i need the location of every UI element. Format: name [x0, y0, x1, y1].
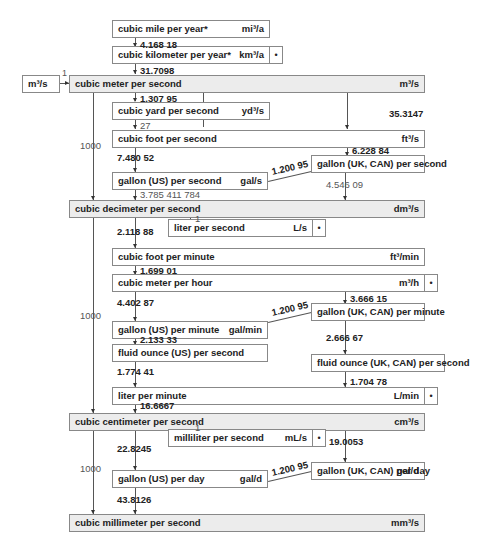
- unit-label: fluid ounce (UK, CAN) per second: [317, 355, 470, 371]
- unit-symbol: mi³/a: [242, 21, 264, 37]
- factor-label: 3.666 15: [350, 293, 387, 304]
- unit-box-dm3s[interactable]: cubic decimeter per seconddm³/s: [69, 200, 425, 218]
- factor-label: 4.546 09: [326, 179, 363, 190]
- unit-box-yd3s[interactable]: cubic yard per secondyd³/s: [112, 102, 270, 120]
- factor-label: 2.666 67: [326, 332, 363, 343]
- unit-symbol: L/s: [293, 220, 307, 236]
- unit-symbol: km³/a: [239, 47, 264, 63]
- unit-box-mm3s[interactable]: cubic millimeter per secondmm³/s: [69, 514, 425, 532]
- unit-symbol: cm³/s: [394, 414, 419, 430]
- unit-symbol: L/min: [394, 388, 419, 404]
- unit-box-ft3min[interactable]: cubic foot per minuteft³/min: [112, 248, 425, 266]
- factor-label: 2.133 33: [140, 334, 177, 345]
- factor-label: 43.8126: [117, 494, 151, 505]
- factor-label: 1.704 78: [350, 376, 387, 387]
- unit-box-km3a[interactable]: cubic kilometer per year*km³/a: [112, 46, 270, 64]
- unit-box-galus-d[interactable]: gallon (US) per daygal/d: [112, 470, 268, 488]
- factor-label: 1: [195, 213, 200, 224]
- unit-symbol: mm³/s: [391, 515, 419, 531]
- unit-label: fluid ounce (US) per second: [118, 345, 244, 361]
- factor-label: 6.228 84: [352, 145, 389, 156]
- unit-label: cubic yard per second: [118, 103, 219, 119]
- unit-box-galuk-s[interactable]: gallon (UK, CAN) per second: [311, 155, 425, 173]
- factor-label: 1.774 41: [117, 366, 154, 377]
- unit-symbol: dm³/s: [394, 201, 419, 217]
- factor-label: 1.200 95: [271, 158, 310, 177]
- si-dot-icon: •: [424, 387, 438, 405]
- factor-label: 3.785 411 784: [140, 189, 200, 200]
- unit-box-ls[interactable]: liter per secondL/s: [168, 219, 313, 237]
- factor-label: 22.8245: [117, 443, 151, 454]
- unit-box-m3h[interactable]: cubic meter per hourm³/h: [112, 274, 425, 292]
- factor-label: 35.3147: [389, 108, 423, 119]
- unit-box-flozus-s[interactable]: fluid ounce (US) per second: [112, 344, 268, 362]
- flow-rate-conversion-diagram: m³/s 1 cubic mile per year*mi³/a cubic k…: [0, 0, 496, 553]
- si-dot-icon: •: [269, 46, 283, 64]
- factor-label: 4.402 87: [117, 297, 154, 308]
- factor-label: 2.118 88: [117, 226, 153, 237]
- unit-box-galus-s[interactable]: gallon (US) per secondgal/s: [112, 172, 268, 190]
- factor-label: 19.0053: [329, 436, 363, 447]
- unit-box-galus-min[interactable]: gallon (US) per minutegal/min: [112, 321, 268, 339]
- factor-label: 16.6667: [140, 400, 174, 411]
- unit-symbol: gal/d: [240, 471, 262, 487]
- factor-label: 1000: [80, 140, 101, 151]
- unit-label: cubic decimeter per second: [75, 201, 201, 217]
- factor-label: 1000: [80, 463, 101, 474]
- unit-label: gallon (US) per day: [118, 471, 205, 487]
- unit-label: cubic foot per minute: [118, 249, 215, 265]
- factor-label: 27: [140, 120, 151, 131]
- unit-symbol: m³/h: [399, 275, 419, 291]
- unit-box-galuk-min[interactable]: gallon (UK, CAN) per minute: [311, 303, 425, 321]
- unit-symbol: ft³/min: [390, 249, 419, 265]
- unit-box-flozuk-s[interactable]: fluid ounce (UK, CAN) per second: [311, 354, 445, 372]
- unit-label: cubic meter per hour: [118, 275, 213, 291]
- unit-symbol: ft³/s: [402, 131, 419, 147]
- unit-box-galuk-d[interactable]: gallon (UK, CAN) per daygal/d: [311, 462, 425, 480]
- factor-label: 1.699 01: [140, 265, 177, 276]
- unit-label: gallon (UK, CAN) per minute: [317, 304, 445, 320]
- unit-symbol: m³/s: [399, 76, 419, 92]
- unit-label: liter per second: [174, 220, 245, 236]
- si-dot-icon: •: [312, 429, 326, 447]
- input-factor: 1: [62, 68, 67, 78]
- unit-label: cubic meter per second: [75, 76, 182, 92]
- unit-symbol: mL/s: [285, 430, 307, 446]
- si-dot-icon: •: [424, 274, 438, 292]
- unit-label: cubic foot per second: [118, 131, 217, 147]
- si-dot-icon: •: [312, 219, 326, 237]
- unit-label: cubic centimeter per second: [75, 414, 204, 430]
- unit-symbol: yd³/s: [242, 103, 264, 119]
- factor-label: 7.480 52: [117, 152, 154, 163]
- unit-symbol: gal/d: [397, 463, 419, 479]
- unit-box-m3s[interactable]: cubic meter per secondm³/s: [69, 75, 425, 93]
- unit-label: gallon (US) per second: [118, 173, 221, 189]
- unit-box-mls[interactable]: milliliter per secondmL/s: [168, 429, 313, 447]
- unit-label: cubic mile per year*: [118, 21, 208, 37]
- factor-label: 1.200 95: [271, 299, 310, 318]
- factor-label: 31.7098: [140, 65, 174, 76]
- unit-label: gallon (UK, CAN) per second: [317, 156, 447, 172]
- input-unit-label: m³/s: [28, 78, 48, 89]
- unit-label: cubic millimeter per second: [75, 515, 201, 531]
- factor-label: 1: [195, 422, 200, 433]
- unit-symbol: gal/min: [229, 322, 262, 338]
- unit-symbol: gal/s: [240, 173, 262, 189]
- unit-label: milliliter per second: [174, 430, 264, 446]
- factor-label: 1.307 95: [140, 93, 177, 104]
- factor-label: 4.168 18: [140, 39, 177, 50]
- input-unit-box[interactable]: m³/s: [22, 75, 60, 93]
- unit-box-mi3a[interactable]: cubic mile per year*mi³/a: [112, 20, 270, 38]
- factor-label: 1000: [80, 310, 101, 321]
- connector: [347, 92, 348, 129]
